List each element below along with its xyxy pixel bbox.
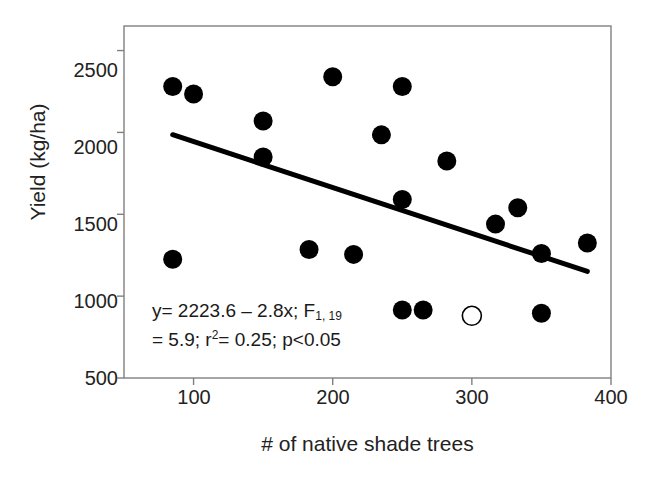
data-point (532, 244, 551, 263)
data-point (163, 250, 182, 269)
scatter-plot-figure: Yield (kg/ha) # of native shade trees 25… (0, 0, 658, 478)
annotation-line-1: y= 2223.6 – 2.8x; F1, 19 (152, 296, 342, 325)
data-point (254, 111, 273, 130)
plot-area (0, 0, 658, 478)
data-point (486, 215, 505, 234)
data-point (393, 77, 412, 96)
data-point (372, 125, 391, 144)
data-point (300, 240, 319, 259)
data-point (184, 84, 203, 103)
data-point (323, 67, 342, 86)
data-point (414, 301, 433, 320)
data-point (437, 152, 456, 171)
data-point (163, 77, 182, 96)
data-point (393, 301, 412, 320)
data-point (393, 190, 412, 209)
annotation-line-2: = 5.9; r2= 0.25; p<0.05 (152, 325, 342, 354)
data-point (578, 233, 597, 252)
data-point (344, 245, 363, 264)
regression-annotation: y= 2223.6 – 2.8x; F1, 19 = 5.9; r2= 0.25… (152, 296, 342, 355)
data-point-open (462, 306, 481, 325)
data-points (163, 67, 597, 325)
data-point (532, 304, 551, 323)
data-point (508, 198, 527, 217)
data-point (254, 147, 273, 166)
